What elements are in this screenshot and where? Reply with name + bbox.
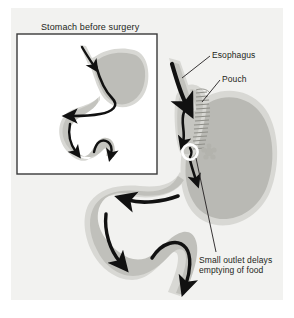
leader-esophagus [182, 56, 210, 78]
duodenum [85, 172, 198, 296]
label-small-outlet-line2: emptying of food [199, 265, 291, 275]
illustration-stage: Stomach before surgery Esophagus Pouch S… [0, 0, 294, 318]
label-esophagus: Esophagus [212, 50, 255, 60]
arrow-pouch [183, 112, 184, 142]
label-small-outlet-line1: Small outlet delays [199, 255, 291, 265]
inset-figure [17, 34, 157, 174]
inset-title: Stomach before surgery [41, 22, 139, 32]
label-pouch: Pouch [222, 74, 247, 84]
label-small-outlet: Small outlet delays emptying of food [199, 255, 291, 275]
